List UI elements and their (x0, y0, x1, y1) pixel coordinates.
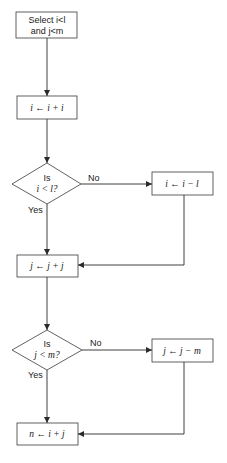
arrow-head (44, 90, 50, 96)
step-j-double-label: j ← j + j (28, 261, 64, 271)
connector-i-subtract-to-j-double (78, 195, 184, 265)
arrow-head (44, 324, 50, 330)
start-box: Select i<l and j<m (16, 12, 77, 38)
decision-i-line2: i < l? (36, 184, 57, 194)
decision-i-no-label: No (88, 173, 100, 183)
result-box: n ← i + j (17, 423, 78, 445)
arrow-head (78, 262, 84, 268)
step-i-subtract-label: i ← i − l (165, 179, 199, 189)
step-i-double-box: i ← i + i (17, 96, 77, 119)
decision-i-diamond: Is i < l? No Yes (12, 163, 100, 215)
decision-i-line1: Is (43, 173, 51, 183)
decision-j-line1: Is (43, 339, 51, 349)
step-i-subtract-box: i ← i − l (152, 172, 213, 195)
decision-j-no-label: No (90, 338, 102, 348)
start-line1: Select i<l (29, 15, 66, 25)
arrow-head (44, 417, 50, 423)
arrow-head (44, 157, 50, 163)
connector-j-subtract-to-result (78, 362, 184, 434)
step-j-subtract-box: j ← j − m (152, 339, 213, 362)
arrow-head (78, 431, 84, 437)
step-j-double-box: j ← j + j (17, 255, 78, 277)
decision-j-yes-label: Yes (28, 370, 43, 380)
decision-j-diamond: Is j < m? No Yes (12, 330, 102, 380)
step-i-double-label: i ← i + i (30, 103, 64, 113)
arrow-head (146, 347, 152, 353)
arrow-head (44, 249, 50, 255)
result-label: n ← i + j (29, 429, 65, 439)
arrow-head (146, 181, 152, 187)
flowchart: Select i<l and j<m i ← i + i Is i < l? N… (0, 0, 227, 463)
step-j-subtract-label: j ← j − m (161, 346, 201, 356)
decision-i-yes-label: Yes (28, 205, 43, 215)
decision-j-line2: j < m? (32, 350, 60, 360)
start-line2: and j<m (31, 26, 63, 36)
